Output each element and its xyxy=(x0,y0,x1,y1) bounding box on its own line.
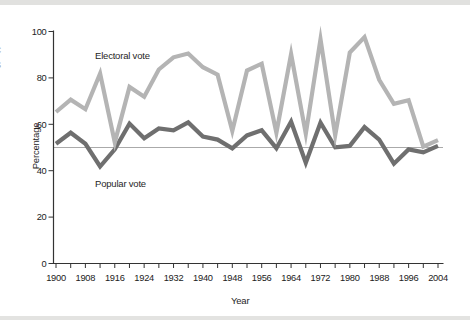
x-axis-tick-label: 1916 xyxy=(105,273,125,283)
y-axis-tick-label: 80 xyxy=(37,73,47,83)
x-axis-tick-label: 1996 xyxy=(399,273,419,283)
x-axis-tick-label: 1948 xyxy=(222,273,242,283)
line-chart: 0204060801001900190819161924193219401948… xyxy=(0,0,470,325)
figure: c s 020406080100190019081916192419321940… xyxy=(0,0,470,325)
y-axis-tick-label: 100 xyxy=(32,27,47,37)
x-axis-tick-label: 1964 xyxy=(281,273,301,283)
y-axis-tick-label: 0 xyxy=(42,259,47,269)
x-axis-tick-label: 1956 xyxy=(252,273,272,283)
y-axis-tick-label: 20 xyxy=(37,212,47,222)
x-axis-tick-label: 2004 xyxy=(428,273,448,283)
x-axis-tick-label: 1980 xyxy=(340,273,360,283)
x-axis-tick-label: 1924 xyxy=(134,273,154,283)
popular-vote-series-label: Popular vote xyxy=(95,178,146,189)
x-axis-tick-label: 1972 xyxy=(311,273,331,283)
x-axis-title: Year xyxy=(231,295,249,306)
y-axis-title: Percentage xyxy=(30,123,41,170)
x-axis-tick-label: 1908 xyxy=(76,273,96,283)
x-axis-tick-label: 1900 xyxy=(46,273,66,283)
x-axis-tick-label: 1988 xyxy=(369,273,389,283)
x-axis-tick-label: 1932 xyxy=(164,273,184,283)
electoral-vote-series-label: Electoral vote xyxy=(95,50,150,61)
x-axis-tick-label: 1940 xyxy=(193,273,213,283)
